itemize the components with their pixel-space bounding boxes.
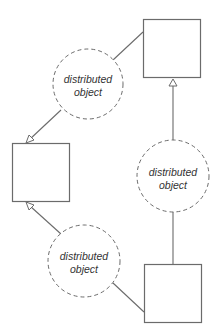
box-left [13, 144, 70, 202]
box-bottom-right [145, 265, 202, 323]
edge-box-top-right-to-circle-top [113, 32, 143, 60]
circle-right: distributed object [137, 140, 209, 212]
circle-bottom-label-line2: object [70, 263, 99, 275]
box-top-right [144, 20, 201, 78]
circle-top: distributed object [53, 49, 123, 119]
edge-box-bottom-right-to-circle-bottom [113, 283, 144, 312]
circle-top-label-line2: object [74, 86, 103, 98]
circle-top-label-line1: distributed [64, 73, 114, 85]
hollow-arrowhead-icon [169, 79, 177, 86]
circle-right-label-line1: distributed [149, 166, 199, 178]
edge-circle-bottom-to-box-left [30, 206, 61, 234]
circle-right-label-line2: object [159, 179, 188, 191]
edge-circle-top-to-box-left [29, 110, 61, 140]
diagram-canvas: distributed object distributed object di… [0, 0, 215, 334]
circle-bottom-label-line1: distributed [60, 250, 110, 262]
circle-bottom: distributed object [48, 225, 120, 297]
